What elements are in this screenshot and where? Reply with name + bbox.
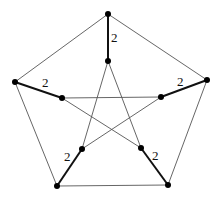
edge-weight-label: 2 (177, 74, 184, 89)
vertex-i3 (79, 146, 85, 152)
vertex-o1 (204, 77, 210, 83)
edge-i4-i1 (62, 97, 161, 98)
edge-o3-o4 (15, 82, 57, 186)
edge-i2-i4 (62, 98, 141, 148)
edge-o2-o3 (57, 185, 168, 186)
edge-weight-label: 2 (152, 148, 159, 163)
edge-o4-i4 (15, 82, 62, 98)
edge-i1-i3 (82, 97, 161, 149)
vertex-o4 (12, 79, 18, 85)
edge-i3-i0 (82, 61, 108, 149)
edge-o0-o1 (108, 14, 207, 80)
vertex-i4 (59, 95, 65, 101)
vertex-o2 (165, 182, 171, 188)
vertex-i0 (105, 58, 111, 64)
edge-o1-o2 (168, 80, 207, 185)
edge-weight-label: 2 (64, 149, 71, 164)
edge-i0-i2 (108, 61, 141, 148)
petersen-graph-diagram: 22222 (0, 0, 222, 199)
vertex-i2 (138, 145, 144, 151)
vertex-o3 (54, 183, 60, 189)
edge-o4-o0 (15, 14, 108, 82)
vertex-i1 (158, 94, 164, 100)
edge-o1-i1 (161, 80, 207, 97)
edge-weight-label: 2 (111, 30, 118, 45)
edge-weight-label: 2 (42, 75, 49, 90)
vertex-o0 (105, 11, 111, 17)
